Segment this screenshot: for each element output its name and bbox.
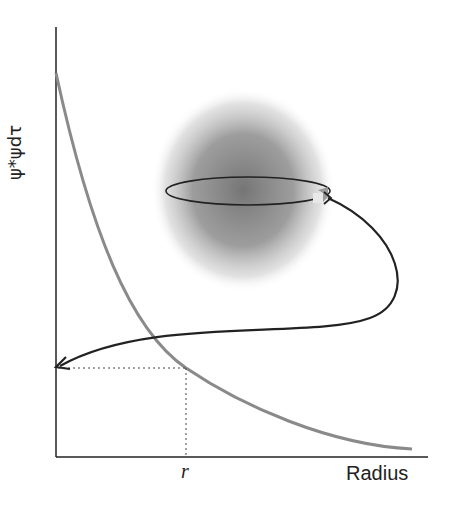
- electron-cloud: [151, 88, 335, 292]
- x-axis-label: Radius: [346, 462, 408, 485]
- diagram-canvas: [0, 0, 461, 511]
- radius-marker-label: r: [181, 460, 189, 483]
- y-axis-label: ψ*ψdτ: [4, 125, 25, 180]
